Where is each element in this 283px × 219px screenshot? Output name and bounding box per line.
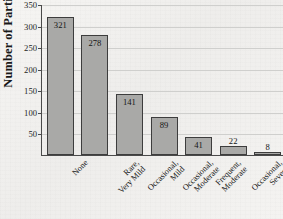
bar: 278	[81, 35, 108, 155]
bar-value-label: 141	[117, 97, 142, 107]
y-tick-label: 250	[4, 43, 37, 53]
x-tick-label: Occasional,Mild	[147, 159, 187, 199]
bar: 141	[116, 94, 143, 155]
bar-value-label: 321	[48, 20, 73, 30]
y-axis-line	[41, 5, 42, 156]
gridline	[41, 91, 283, 92]
x-tick-label: None	[72, 159, 91, 178]
x-tick-label-line1: None	[71, 158, 90, 177]
y-tick-label: 150	[4, 86, 37, 96]
bar-value-label: 22	[221, 136, 246, 146]
bar-chart: Number of Participants 50100150200250300…	[0, 0, 283, 219]
bar: 22	[220, 146, 247, 155]
y-tick-label: 200	[4, 65, 37, 75]
bar: 321	[47, 17, 74, 155]
gridline	[41, 48, 283, 49]
y-tick-label: 350	[4, 0, 37, 10]
gridline	[41, 113, 283, 114]
bar-value-label: 89	[152, 120, 177, 130]
bar-value-label: 278	[82, 38, 107, 48]
x-tick-label: Occasional,Severe	[251, 159, 283, 199]
y-tick-label: 50	[4, 129, 37, 139]
y-tick-label: 100	[4, 108, 37, 118]
y-tick-label: 300	[4, 22, 37, 32]
x-tick-label: Rare,Very Mild	[111, 159, 147, 195]
bar-value-label: 41	[186, 140, 211, 150]
bar-value-label: 8	[255, 142, 280, 152]
bar: 41	[185, 137, 212, 155]
gridline	[41, 27, 283, 28]
gridline	[41, 70, 283, 71]
x-axis-line	[41, 155, 283, 156]
bar: 89	[151, 117, 178, 155]
plot-area: 50100150200250300350 3212781418941228	[41, 5, 283, 156]
x-tick-label: Frequent,Moderate	[214, 159, 249, 194]
bar: 8	[254, 152, 281, 155]
gridline	[41, 5, 283, 6]
